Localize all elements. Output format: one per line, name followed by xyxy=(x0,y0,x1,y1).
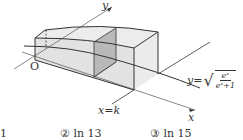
curve-equation: y= √ eˣ eˣ+1 xyxy=(187,70,236,90)
x-axis-label: x xyxy=(188,112,194,123)
fraction-denominator: eˣ+1 xyxy=(216,81,235,90)
sqrt-icon: √ xyxy=(203,71,213,90)
x-equals-k-label: x=k xyxy=(98,105,120,116)
origin-label: O xyxy=(30,61,39,72)
curve-label-prefix: y= xyxy=(187,75,202,86)
x-equals-k-line xyxy=(112,90,134,104)
y-axis-label: y xyxy=(102,0,108,11)
fraction-numerator: eˣ xyxy=(220,71,232,81)
fraction: eˣ eˣ+1 xyxy=(215,70,236,90)
choice-1[interactable]: 1 xyxy=(0,128,7,139)
choice-3[interactable]: ③ ln 15 xyxy=(150,128,192,139)
choice-2[interactable]: ② ln 13 xyxy=(60,128,102,139)
